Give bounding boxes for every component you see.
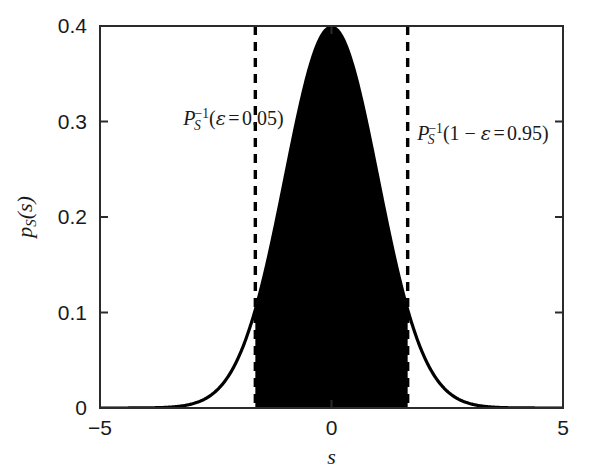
- y-axis-label-subscript: S: [23, 219, 39, 226]
- chart-figure: 0 0.1 0.2 0.3 0.4 −5 0 5 s pS(s) PS−1(ε=…: [0, 0, 591, 474]
- ytick-label: 0.3: [0, 110, 87, 134]
- lower-annot-open-paren: (: [209, 107, 216, 129]
- x-axis-label: s: [327, 444, 336, 470]
- upper-annot-prefix: 1 −: [450, 122, 481, 144]
- upper-annot-value: 0.95: [507, 122, 542, 144]
- lower-annot-superscript: −1: [195, 106, 209, 121]
- xtick-label: 5: [557, 416, 569, 440]
- ytick-label: 0.4: [0, 14, 87, 38]
- upper-annot-superscript: −1: [428, 121, 442, 136]
- upper-quantile-annotation: PS−1(1 − ε=0.95): [417, 122, 549, 147]
- xtick-label: 0: [326, 416, 338, 440]
- upper-annot-relation: =: [493, 122, 504, 144]
- ytick-label: 0: [0, 396, 87, 420]
- plot-canvas: [0, 0, 591, 474]
- lower-annot-close-paren: ): [277, 107, 284, 129]
- y-axis-label: pS(s): [12, 196, 40, 238]
- xtick-label: −5: [88, 416, 112, 440]
- upper-annot-open-paren: (: [443, 122, 450, 144]
- upper-annot-close-paren: ): [542, 122, 549, 144]
- lower-annot-relation: =: [228, 107, 239, 129]
- lower-annot-value: 0.05: [242, 107, 277, 129]
- upper-annot-epsilon: ε: [481, 122, 491, 144]
- lower-annot-epsilon: ε: [216, 107, 226, 129]
- y-axis-label-arg: (s): [12, 196, 37, 219]
- ytick-label: 0.1: [0, 301, 87, 325]
- lower-quantile-annotation: PS−1(ε=0.05): [183, 107, 283, 132]
- y-axis-label-symbol: p: [12, 227, 37, 238]
